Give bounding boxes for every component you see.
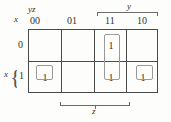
cell-x0-yz01[interactable]	[62, 30, 94, 61]
z-group-label: z	[92, 107, 96, 116]
y-group-label: y	[127, 2, 131, 11]
cell-x1-yz01[interactable]	[62, 62, 94, 93]
bracket-tick-right	[129, 102, 130, 106]
karnaugh-map-figure: x yz 00 01 11 10 0 1 x { y 1	[0, 0, 171, 122]
kmap-grid: 1 1 1 1	[28, 29, 158, 93]
column-header-10: 10	[137, 16, 147, 26]
implicant-group-x1-yz00	[36, 65, 53, 80]
implicant-group-column-yz11	[104, 34, 120, 80]
row-header-1: 1	[19, 71, 24, 81]
row-variable-label: x	[14, 15, 18, 24]
column-header-00: 00	[30, 16, 40, 26]
cell-x0-yz10[interactable]	[127, 30, 159, 61]
bracket-tick-right	[157, 12, 158, 16]
row-header-0: 0	[18, 40, 23, 50]
left-brace-glyph: {	[10, 61, 17, 92]
y-span-bracket	[97, 12, 158, 17]
implicant-group-x1-yz10	[136, 65, 153, 80]
bracket-tick-left	[97, 12, 98, 16]
bracket-bar	[97, 12, 158, 13]
cell-x0-yz00[interactable]	[29, 30, 61, 61]
column-header-01: 01	[67, 16, 77, 26]
bracket-tick-left	[60, 102, 61, 106]
column-header-11: 11	[105, 16, 115, 26]
x-group-label: x	[4, 70, 8, 79]
column-variable-label: yz	[28, 5, 36, 14]
